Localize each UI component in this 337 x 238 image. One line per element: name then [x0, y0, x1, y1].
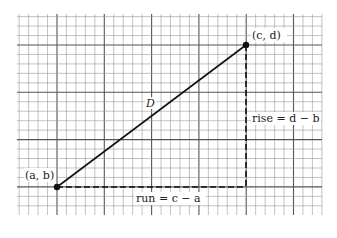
label-segment: D [145, 97, 155, 110]
label-run: run = c − a [136, 192, 201, 205]
label-start-point: (a, b) [25, 169, 54, 182]
label-rise: rise = d − b [252, 112, 319, 125]
label-end-point: (c, d) [252, 29, 281, 42]
point-a-b [54, 184, 60, 190]
point-c-d [243, 42, 249, 48]
slope-diagram: (a, b) (c, d) D run = c − a rise = d − b [0, 0, 337, 238]
